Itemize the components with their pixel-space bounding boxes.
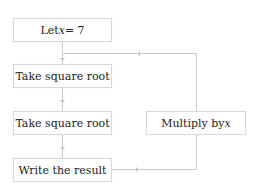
arrow-head-icon [137, 51, 140, 56]
node-sqrt1: Take square root [13, 64, 112, 88]
node-multiply: Multiply by x [146, 111, 246, 135]
arrow-head-icon [60, 58, 65, 61]
node-sqrt2-label: Take square root [15, 117, 109, 130]
node-sqrt1-label: Take square root [15, 70, 109, 83]
node-write-label: Write the result [19, 164, 107, 177]
node-multiply-prefix: Multiply by [161, 117, 224, 130]
arrow-head-icon [136, 167, 139, 172]
node-init-suffix: = 7 [65, 24, 85, 37]
node-write: Write the result [13, 158, 112, 182]
arrow-head-icon [60, 100, 65, 103]
node-init: Let x = 7 [13, 18, 112, 42]
arrow-head-icon [60, 147, 65, 150]
node-multiply-var: x [225, 117, 231, 130]
node-init-prefix: Let [40, 24, 58, 37]
edge-write-to-multiply [112, 135, 197, 170]
node-sqrt2: Take square root [13, 111, 112, 135]
